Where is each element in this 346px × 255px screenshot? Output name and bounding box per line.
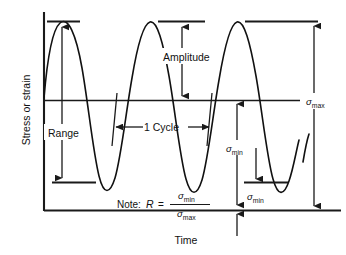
sine-wave-tail — [303, 134, 309, 162]
sigma-max-dimension: σmax — [300, 26, 340, 206]
sigma-min-dimension-center: σmin — [222, 104, 260, 236]
stress-strain-waveform-diagram: Range Amplitude 1 Cycle σmax — [0, 0, 346, 255]
sigma-max-subscript: max — [312, 102, 325, 109]
sigma-min-subscript-right: min — [253, 197, 264, 204]
note-equals: = — [158, 199, 164, 210]
x-axis-label: Time — [175, 234, 198, 246]
amplitude-label: Amplitude — [163, 51, 210, 63]
note-numerator-subscript: min — [184, 196, 195, 203]
y-axis-label: Stress or strain — [20, 75, 32, 146]
note-formula: Note: R = σmin σmax — [117, 190, 210, 221]
sine-wave-path — [44, 22, 299, 193]
waveform-curve — [44, 22, 309, 193]
figure-container: Range Amplitude 1 Cycle σmax — [0, 0, 346, 255]
sigma-min-dimension-right: σmin — [247, 148, 264, 204]
range-label: Range — [48, 127, 79, 139]
note-prefix: Note: — [117, 199, 141, 210]
amplitude-dimension: Amplitude — [160, 27, 214, 96]
cycle-label: 1 Cycle — [144, 121, 179, 133]
note-symbol-r: R — [146, 198, 154, 210]
sigma-min-label-right: σmin — [247, 191, 264, 204]
note-denominator-subscript: max — [183, 214, 196, 221]
sigma-min-subscript-center: min — [232, 149, 243, 156]
